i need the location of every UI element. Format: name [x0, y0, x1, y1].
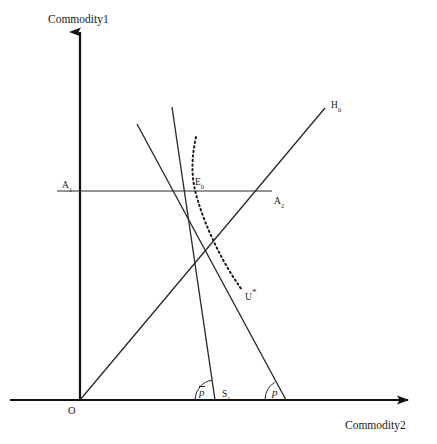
h0-ray [80, 108, 325, 400]
a2-letter: A [274, 196, 281, 206]
h0-label: H0 [331, 101, 341, 112]
x-axis-title: Commodity2 [345, 420, 406, 432]
commodity-diagram-figure: Commodity1 Commodity2 O A1 A2 E0 H0 U* S… [0, 0, 437, 444]
indifference-curve-u [192, 137, 242, 290]
price-line-p [137, 124, 286, 400]
a1-letter: A [62, 180, 69, 190]
p-bar-letter: p [199, 387, 205, 398]
y-axis-title: Commodity1 [48, 14, 109, 26]
u-star-asterisk: * [252, 287, 257, 297]
h0-letter: H [331, 100, 338, 110]
u-letter: U [245, 292, 252, 302]
a1-label: A1 [62, 181, 72, 192]
e0-label: E0 [195, 178, 204, 189]
e0-subscript: 0 [201, 183, 204, 190]
a1-subscript: 1 [69, 186, 72, 193]
a2-label: A2 [274, 197, 284, 208]
p-bar-angle-label: p [199, 387, 205, 398]
u-star-label: U* [245, 289, 256, 303]
p-angle-label: p [272, 387, 278, 398]
a2-subscript: 2 [281, 202, 284, 209]
diagram-canvas [0, 0, 437, 444]
origin-label: O [68, 406, 76, 417]
e0-letter: E [195, 177, 201, 187]
h0-subscript: 0 [338, 106, 341, 113]
s1-subscript: 1 [227, 395, 230, 402]
s1-label: S1 [222, 390, 231, 401]
